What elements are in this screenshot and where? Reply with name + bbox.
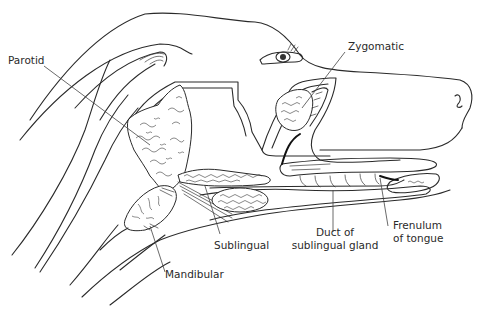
zygomatic-gland [276, 88, 328, 131]
mandible-oval-gland [212, 188, 268, 212]
neck-line-1 [12, 60, 110, 255]
label-parotid: Parotid [8, 54, 45, 67]
neck-line-2 [35, 95, 128, 268]
label-zygomatic: Zygomatic [348, 40, 404, 53]
nose-outline [455, 95, 462, 107]
salivary-gland-diagram: Parotid Zygomatic Sublingual Mandibular … [0, 0, 477, 311]
sublingual-gland [178, 169, 270, 186]
eye [260, 44, 302, 64]
label-frenulum-of-tongue: Frenulum of tongue [393, 219, 443, 245]
mandibular-gland [124, 186, 176, 231]
label-frenulum-line-1: Frenulum [393, 219, 443, 232]
neck-line-6 [110, 262, 170, 305]
label-frenulum-line-2: of tongue [393, 232, 443, 245]
label-duct-line-2: sublingual gland [289, 239, 381, 252]
neck-line-3 [40, 108, 138, 272]
label-sublingual: Sublingual [214, 239, 269, 252]
head-outline [30, 13, 472, 128]
neck-line-4 [70, 225, 118, 285]
label-duct-line-1: Duct of [289, 226, 381, 239]
label-duct-of-sublingual-gland: Duct of sublingual gland [289, 226, 381, 252]
label-mandibular: Mandibular [165, 268, 224, 281]
muzzle-lower-outline [320, 128, 462, 150]
dog-head-illustration [0, 0, 477, 311]
tongue [280, 134, 436, 187]
leader-mandibular [150, 226, 165, 272]
